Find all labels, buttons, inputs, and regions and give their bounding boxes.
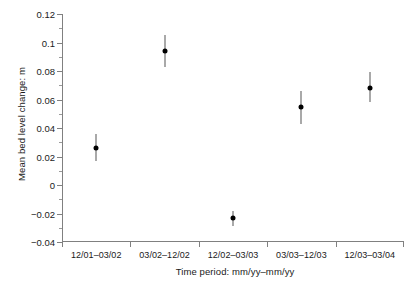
x-tick-label: 03/03–12/03 bbox=[276, 250, 327, 260]
plot-area: 0.120.10.080.060.040.020−0.02−0.04 12/01… bbox=[62, 14, 404, 242]
x-axis-line bbox=[62, 241, 404, 242]
data-point bbox=[231, 215, 236, 220]
y-tick-mark bbox=[57, 157, 62, 158]
bed-level-change-scatter-chart: Mean bed level change: m 0.120.10.080.06… bbox=[0, 0, 412, 292]
y-tick-label: 0.12 bbox=[37, 9, 56, 20]
y-tick-mark bbox=[57, 100, 62, 101]
y-tick-label: −0.04 bbox=[31, 237, 55, 248]
y-tick-label: 0.08 bbox=[37, 66, 56, 77]
y-tick-label: −0.02 bbox=[31, 208, 55, 219]
y-tick-label: 0.04 bbox=[37, 123, 56, 134]
y-tick-mark bbox=[57, 14, 62, 15]
y-tick-label: 0.06 bbox=[37, 94, 56, 105]
x-tick-mark bbox=[199, 242, 200, 247]
y-tick-mark bbox=[57, 128, 62, 129]
y-axis-line bbox=[62, 14, 63, 242]
x-tick-mark bbox=[403, 242, 404, 247]
x-tick-label: 12/03–03/04 bbox=[344, 250, 395, 260]
data-point bbox=[162, 49, 167, 54]
y-axis-title: Mean bed level change: m bbox=[14, 8, 30, 240]
y-minor-tick-mark bbox=[59, 228, 62, 229]
data-point bbox=[94, 145, 99, 150]
y-minor-tick-mark bbox=[59, 199, 62, 200]
y-minor-tick-mark bbox=[59, 142, 62, 143]
x-tick-label: 03/02–12/02 bbox=[139, 250, 190, 260]
y-tick-label: 0.02 bbox=[37, 151, 56, 162]
x-tick-mark bbox=[130, 242, 131, 247]
y-minor-tick-mark bbox=[59, 28, 62, 29]
y-minor-tick-mark bbox=[59, 114, 62, 115]
x-tick-mark bbox=[267, 242, 268, 247]
x-tick-label: 12/01–03/02 bbox=[71, 250, 122, 260]
y-minor-tick-mark bbox=[59, 85, 62, 86]
y-tick-label: 0 bbox=[50, 180, 55, 191]
data-point bbox=[299, 104, 304, 109]
x-tick-label: 12/02–03/03 bbox=[208, 250, 259, 260]
x-tick-mark bbox=[336, 242, 337, 247]
x-tick-mark bbox=[62, 242, 63, 247]
y-tick-label: 0.1 bbox=[42, 37, 55, 48]
y-tick-mark bbox=[57, 185, 62, 186]
x-axis-title: Time period: mm/yy–mm/yy bbox=[60, 266, 410, 277]
data-point bbox=[367, 86, 372, 91]
y-tick-mark bbox=[57, 214, 62, 215]
y-minor-tick-mark bbox=[59, 57, 62, 58]
y-minor-tick-mark bbox=[59, 171, 62, 172]
y-tick-mark bbox=[57, 71, 62, 72]
y-tick-mark bbox=[57, 43, 62, 44]
